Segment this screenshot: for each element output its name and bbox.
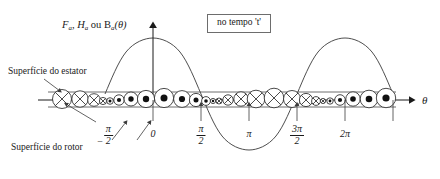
conductor-dot xyxy=(335,95,346,106)
conductor-dot xyxy=(154,88,173,107)
conductor-dot-group-first xyxy=(107,88,216,107)
conductor-cross xyxy=(247,90,265,108)
conductor-cross xyxy=(312,97,321,106)
conductor-dot xyxy=(202,97,211,106)
time-annotation-box: no tempo 't' xyxy=(207,14,271,33)
tick-label-three-half-pi: 3π2 xyxy=(290,124,304,146)
rotating-field-diagram: Fa, Ha ou Ba(θ) no tempo 't' Superfície … xyxy=(0,0,440,179)
conductor-band xyxy=(53,88,396,108)
conductor-dot xyxy=(327,98,333,104)
theta-axis-label: θ xyxy=(422,95,427,106)
tick-label-zero: 0 xyxy=(151,124,156,139)
stator-surface-callout: Superfície do estator xyxy=(8,67,87,77)
tick-label-neg-half-pi: −π2 xyxy=(97,124,113,147)
conductor-dot xyxy=(124,92,138,106)
conductor-cross-group-middle xyxy=(216,88,326,108)
conductor-dot xyxy=(346,92,360,106)
tick-label-two-pi: 2π xyxy=(340,124,350,139)
ordinate-axis-label: Fa, Ha ou Ba(θ) xyxy=(62,20,127,32)
rotor-callout-leader-right xyxy=(137,122,150,140)
conductor-cross xyxy=(99,97,106,104)
tick-label-pi: π xyxy=(246,124,251,139)
conductor-cross xyxy=(88,94,101,107)
conductor-dot xyxy=(114,95,124,105)
conductor-cross xyxy=(299,93,312,106)
conductor-dot xyxy=(360,90,378,108)
conductor-dot xyxy=(107,98,114,105)
conductor-dot-group-right xyxy=(327,88,396,107)
rotor-surface-callout: Superfície do rotor xyxy=(11,143,83,153)
rotor-callout-leader-left xyxy=(112,122,126,140)
conductor-cross xyxy=(72,91,88,107)
time-annotation-text: no tempo 't' xyxy=(217,17,261,27)
conductor-cross xyxy=(320,98,325,103)
conductor-dot xyxy=(137,90,154,107)
conductor-dot xyxy=(210,98,215,103)
tick-label-half-pi: π2 xyxy=(196,124,205,146)
conductor-cross xyxy=(234,92,248,106)
conductor-dot xyxy=(174,91,191,108)
conductor-cross xyxy=(264,88,284,108)
stator-callout-leader xyxy=(44,79,60,91)
conductor-cross xyxy=(284,91,301,108)
conductor-cross xyxy=(216,98,222,104)
conductor-cross xyxy=(223,95,233,105)
